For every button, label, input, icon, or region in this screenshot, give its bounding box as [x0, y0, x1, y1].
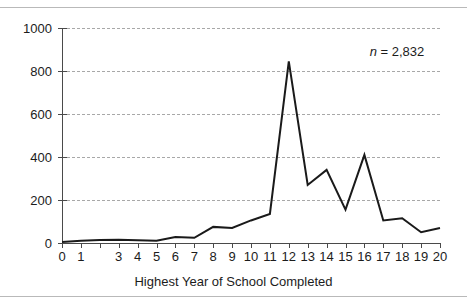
y-axis-tick-label: 800	[6, 65, 52, 78]
x-axis-tick	[402, 243, 403, 248]
bottom-rule	[0, 296, 467, 297]
x-axis-tick	[62, 243, 63, 248]
x-axis-tick	[327, 243, 328, 248]
y-axis-tick-label: 600	[6, 108, 52, 121]
x-axis-tick	[157, 243, 158, 248]
x-axis-tick	[81, 243, 82, 248]
x-axis-tick	[194, 243, 195, 248]
line-series-respondents	[62, 28, 440, 243]
y-axis-tick	[58, 71, 67, 72]
x-axis-tick	[175, 243, 176, 248]
x-axis-title: Highest Year of School Completed	[0, 274, 467, 289]
x-axis-tick	[251, 243, 252, 248]
x-axis-tick-label: 20	[429, 250, 451, 263]
y-axis-tick-label: 0	[6, 237, 52, 250]
figure-container: 10008006004002000 0134567891011121314151…	[0, 0, 467, 304]
x-axis-tick	[364, 243, 365, 248]
y-axis-tick-label: 400	[6, 151, 52, 164]
y-axis-tick	[58, 157, 67, 158]
x-axis-tick	[421, 243, 422, 248]
x-axis-tick	[383, 243, 384, 248]
x-axis-tick	[232, 243, 233, 248]
y-axis-tick	[58, 200, 67, 201]
x-axis-tick	[100, 243, 101, 248]
x-axis-tick	[440, 243, 441, 248]
y-axis-tick-label: 200	[6, 194, 52, 207]
x-axis-tick-label: 1	[70, 250, 92, 263]
annotation-value: = 2,832	[381, 44, 425, 59]
top-rule	[0, 7, 467, 8]
x-axis-tick	[119, 243, 120, 248]
x-axis-tick	[308, 243, 309, 248]
x-axis-tick	[138, 243, 139, 248]
y-axis-tick	[58, 28, 67, 29]
sample-size-annotation: n = 2,832	[352, 44, 442, 59]
plot-area	[62, 28, 440, 243]
y-axis-tick	[58, 114, 67, 115]
x-axis-tick	[270, 243, 271, 248]
x-axis-tick	[213, 243, 214, 248]
annotation-symbol: n	[370, 44, 377, 59]
x-axis-tick	[289, 243, 290, 248]
x-axis-tick	[346, 243, 347, 248]
y-axis-tick-label: 1000	[6, 22, 52, 35]
